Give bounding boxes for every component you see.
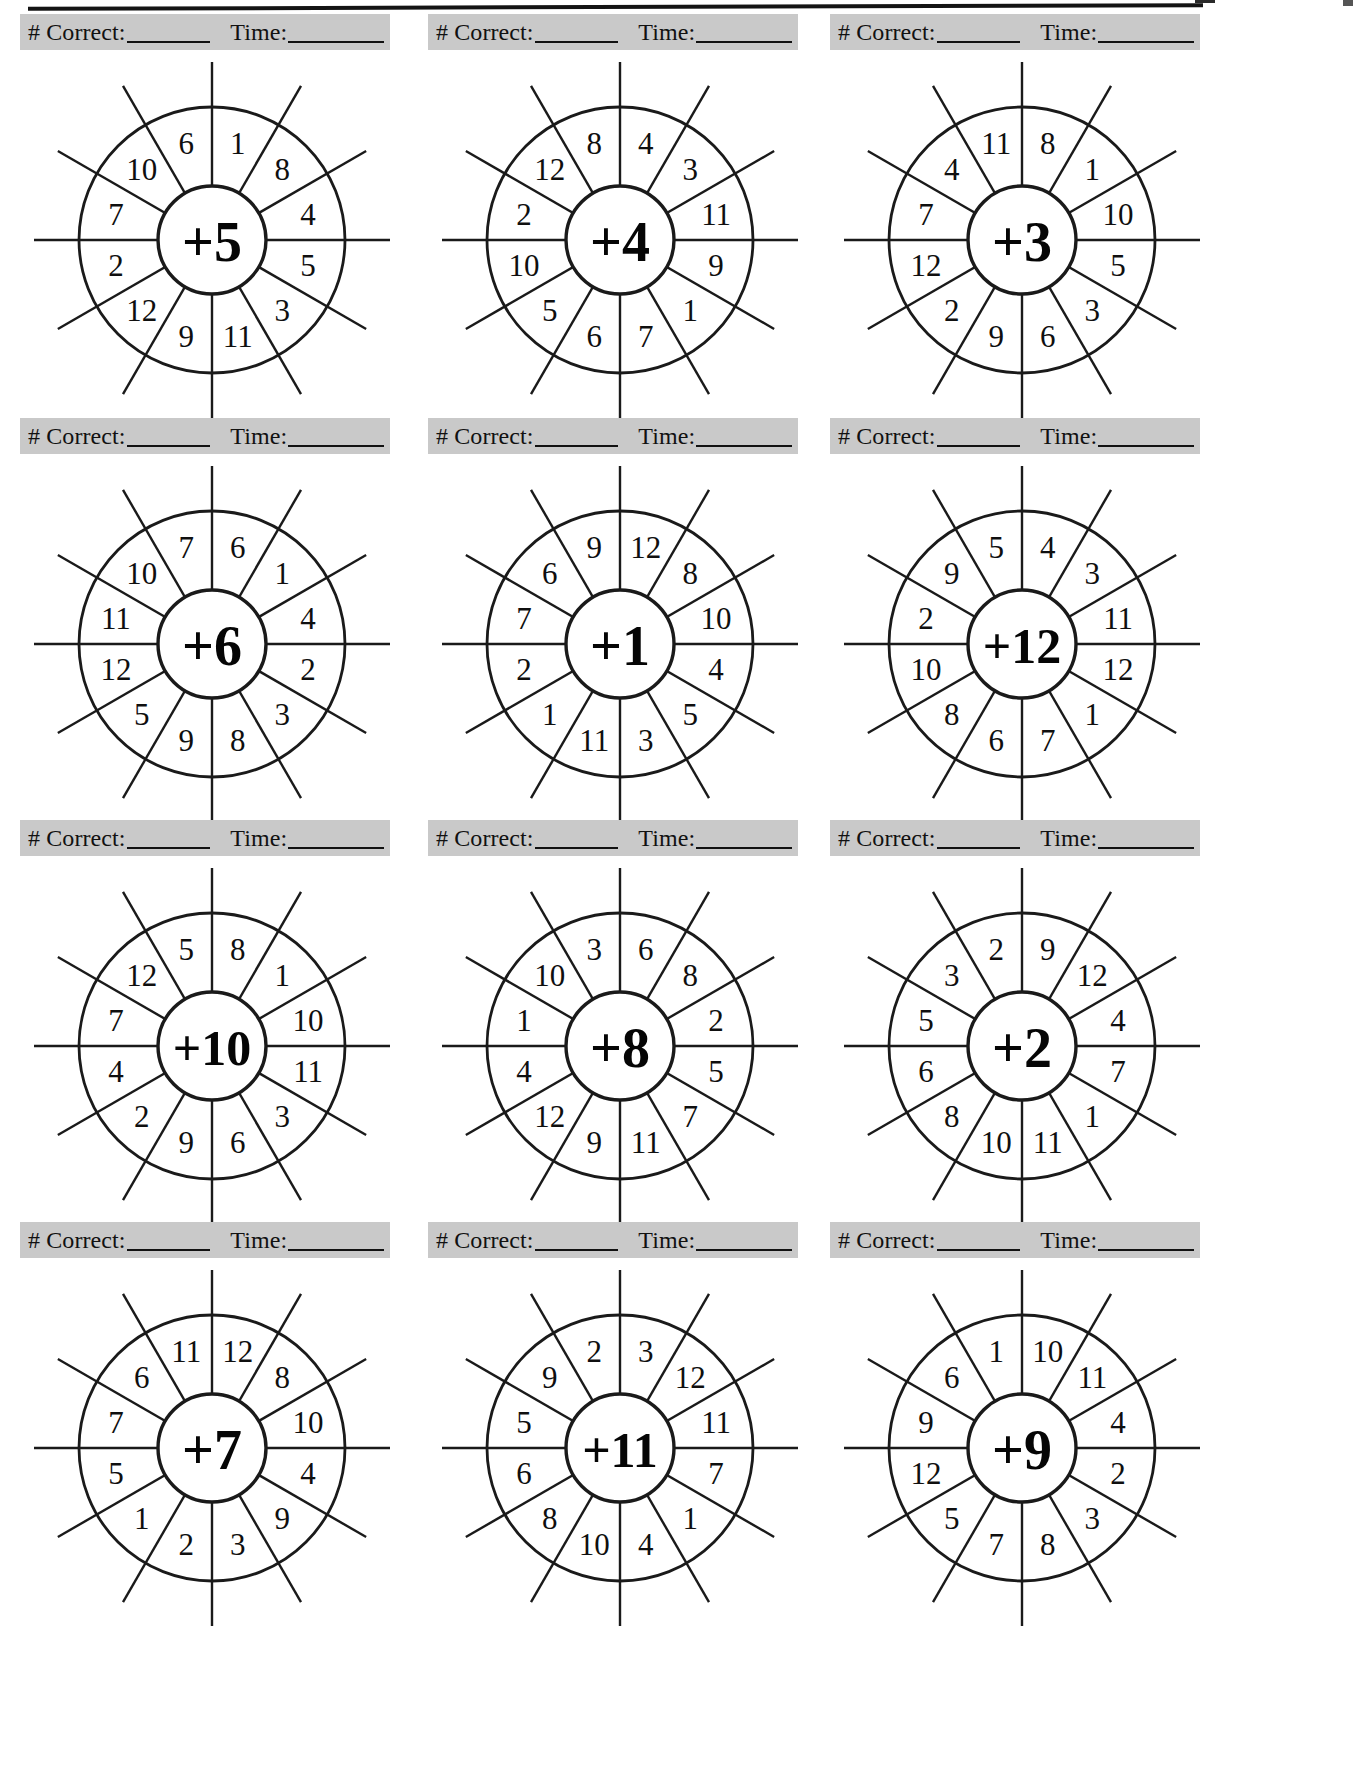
wheel-segment-number: 5 xyxy=(683,697,699,732)
wheel-operator-label: +3 xyxy=(992,211,1052,273)
wheel-segment-number: 2 xyxy=(108,248,124,283)
wheel-segment-number: 9 xyxy=(586,1125,602,1160)
wheel-segment-number: 5 xyxy=(1110,248,1126,283)
number-wheel: +2912471111086532 xyxy=(830,850,1235,1220)
wheel-segment-number: 2 xyxy=(1110,1456,1126,1491)
wheel-segment-number: 7 xyxy=(708,1456,724,1491)
wheel-problem-card: # Correct:Time:+10811011369247125 xyxy=(20,820,425,1214)
correct-count-label: # Correct: xyxy=(838,19,936,46)
wheel-operator-label: +7 xyxy=(182,1419,242,1481)
wheel-segment-number: 3 xyxy=(275,293,291,328)
wheel-segment-number: 3 xyxy=(638,723,654,758)
correct-count-input[interactable] xyxy=(535,828,619,849)
time-label: Time: xyxy=(230,19,287,46)
wheel-segment-number: 1 xyxy=(1085,1099,1101,1134)
correct-count-input[interactable] xyxy=(937,1230,1021,1251)
wheel-segment-number: 5 xyxy=(134,697,150,732)
wheel-segment-number: 1 xyxy=(275,556,291,591)
wheel-segment-number: 7 xyxy=(1110,1054,1126,1089)
time-input[interactable] xyxy=(288,828,384,849)
wheel-segment-number: 10 xyxy=(701,601,732,636)
wheel-segment-number: 12 xyxy=(910,1456,941,1491)
wheel-segment-number: 9 xyxy=(1040,932,1056,967)
correct-count-input[interactable] xyxy=(127,22,211,43)
time-label: Time: xyxy=(638,423,695,450)
wheel-segment-number: 7 xyxy=(108,197,124,232)
correct-count-input[interactable] xyxy=(535,426,619,447)
wheel-segment-number: 5 xyxy=(918,1003,934,1038)
correct-count-input[interactable] xyxy=(937,828,1021,849)
wheel-operator-label: +1 xyxy=(590,615,650,677)
wheel-segment-number: 4 xyxy=(300,601,316,636)
wheel-segment-number: 11 xyxy=(1077,1360,1107,1395)
wheel-segment-number: 10 xyxy=(981,1125,1012,1160)
wheel-segment-number: 3 xyxy=(638,1334,654,1369)
wheel-segment-number: 12 xyxy=(534,152,565,187)
time-label: Time: xyxy=(638,1227,695,1254)
wheel-operator-label: +11 xyxy=(582,1422,658,1478)
wheel-segment-number: 7 xyxy=(108,1003,124,1038)
wheel-segment-number: 10 xyxy=(293,1003,324,1038)
wheel-segment-number: 1 xyxy=(516,1003,532,1038)
wheel-segment-number: 9 xyxy=(542,1360,558,1395)
correct-count-input[interactable] xyxy=(127,426,211,447)
wheel-segment-number: 5 xyxy=(944,1501,960,1536)
wheel-segment-number: 10 xyxy=(508,248,539,283)
wheel-operator-label: +8 xyxy=(590,1017,650,1079)
wheel-segment-number: 6 xyxy=(230,1125,246,1160)
time-label: Time: xyxy=(230,825,287,852)
wheel-segment-number: 6 xyxy=(230,530,246,565)
time-input[interactable] xyxy=(288,426,384,447)
wheel-segment-number: 9 xyxy=(586,530,602,565)
time-label: Time: xyxy=(638,825,695,852)
wheel-segment-number: 2 xyxy=(516,197,532,232)
wheel-segment-number: 4 xyxy=(1110,1405,1126,1440)
wheel-segment-number: 11 xyxy=(1033,1125,1063,1160)
correct-count-input[interactable] xyxy=(937,426,1021,447)
correct-count-input[interactable] xyxy=(127,828,211,849)
wheel-segment-number: 7 xyxy=(1040,723,1056,758)
correct-count-label: # Correct: xyxy=(28,19,126,46)
wheel-segment-number: 3 xyxy=(683,152,699,187)
time-input[interactable] xyxy=(288,1230,384,1251)
wheel-segment-number: 7 xyxy=(918,197,934,232)
wheel-segment-number: 1 xyxy=(230,126,246,161)
wheel-operator-label: +2 xyxy=(992,1017,1052,1079)
number-wheel: +8682571191241103 xyxy=(428,850,833,1220)
time-input[interactable] xyxy=(1098,828,1194,849)
time-input[interactable] xyxy=(696,828,792,849)
time-input[interactable] xyxy=(288,22,384,43)
wheel-segment-number: 2 xyxy=(300,652,316,687)
correct-count-label: # Correct: xyxy=(436,1227,534,1254)
time-input[interactable] xyxy=(696,426,792,447)
correct-count-label: # Correct: xyxy=(28,825,126,852)
time-label: Time: xyxy=(1040,19,1097,46)
wheel-segment-number: 12 xyxy=(910,248,941,283)
wheel-segment-number: 6 xyxy=(1040,319,1056,354)
wheel-segment-number: 12 xyxy=(222,1334,253,1369)
worksheet-grid: # Correct:Time:+5184531191227106# Correc… xyxy=(0,0,1359,1765)
wheel-segment-number: 5 xyxy=(108,1456,124,1491)
time-input[interactable] xyxy=(1098,22,1194,43)
correct-count-input[interactable] xyxy=(937,22,1021,43)
correct-count-input[interactable] xyxy=(127,1230,211,1251)
time-label: Time: xyxy=(230,423,287,450)
time-input[interactable] xyxy=(1098,1230,1194,1251)
correct-count-label: # Correct: xyxy=(838,423,936,450)
time-input[interactable] xyxy=(696,1230,792,1251)
wheel-segment-number: 12 xyxy=(1103,652,1134,687)
wheel-segment-number: 5 xyxy=(516,1405,532,1440)
number-wheel: +12431112176810295 xyxy=(830,448,1235,818)
wheel-segment-number: 8 xyxy=(275,152,291,187)
wheel-segment-number: 11 xyxy=(579,723,609,758)
correct-count-label: # Correct: xyxy=(436,825,534,852)
time-input[interactable] xyxy=(1098,426,1194,447)
time-input[interactable] xyxy=(696,22,792,43)
number-wheel: +7128104932157611 xyxy=(20,1252,425,1622)
correct-count-input[interactable] xyxy=(535,22,619,43)
wheel-segment-number: 11 xyxy=(981,126,1011,161)
wheel-segment-number: 11 xyxy=(223,319,253,354)
correct-count-input[interactable] xyxy=(535,1230,619,1251)
wheel-segment-number: 6 xyxy=(134,1360,150,1395)
number-wheel: +10811011369247125 xyxy=(20,850,425,1220)
